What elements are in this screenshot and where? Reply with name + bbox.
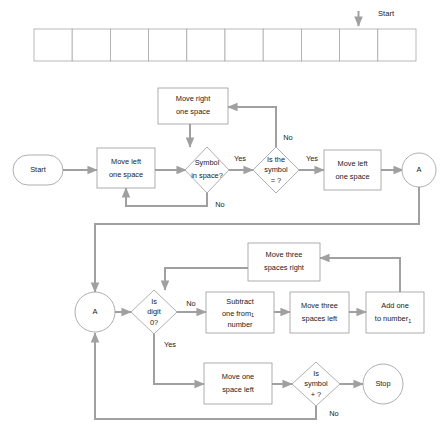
node-is-symbol-plus[interactable]: Is symbol + ?	[292, 362, 340, 406]
add-one-to-number-line1: Add one	[381, 301, 409, 310]
edge-addone-to-movethreeright	[320, 258, 400, 292]
move-three-spaces-right-line1: Move three	[266, 250, 303, 259]
edge-label-is-symbol-plus-no: No	[329, 409, 338, 418]
edge-label-is-the-symbol-no: No	[283, 133, 292, 142]
tape-cell[interactable]	[187, 29, 225, 61]
node-is-the-symbol-equals[interactable]: Is the symbol = ?	[253, 147, 299, 193]
subtract-one-from-number-line2: one from1	[222, 308, 254, 318]
connector-a-top-label: A	[417, 165, 422, 174]
node-connector-a-top[interactable]: A	[402, 153, 436, 187]
tape-cell[interactable]	[340, 29, 378, 61]
node-subtract-one-from-number[interactable]: Subtract one from1 number	[206, 292, 274, 333]
move-one-space-left-shape	[204, 363, 272, 404]
tape-cell[interactable]	[72, 29, 110, 61]
node-move-one-space-left[interactable]: Move one space left	[204, 363, 272, 404]
edge-label-is-the-symbol-yes: Yes	[306, 154, 318, 163]
start-label: Start	[30, 165, 46, 174]
is-the-symbol-equals-line1: Is the	[267, 155, 285, 164]
is-digit-0-line3: 0?	[150, 318, 158, 327]
is-the-symbol-equals-line3: = ?	[271, 176, 281, 185]
tape-cells	[34, 29, 416, 61]
tape-cell[interactable]	[225, 29, 263, 61]
add-one-to-number-line2: to number1	[375, 314, 411, 324]
subtract-one-from-number-line1: Subtract	[226, 297, 254, 306]
is-symbol-plus-line1: Is	[313, 369, 319, 378]
edge-label-is-digit-0-yes: Yes	[164, 340, 176, 349]
node-add-one-to-number[interactable]: Add one to number1	[366, 292, 424, 333]
tape-cell[interactable]	[263, 29, 301, 61]
symbol-in-space-shape	[185, 147, 229, 193]
node-move-left-one-space-1[interactable]: Move left one space	[97, 148, 155, 188]
node-connector-a-bottom[interactable]: A	[75, 292, 115, 332]
move-left-one-space-1-shape	[97, 148, 155, 188]
move-three-spaces-left-line1: Move three	[301, 301, 338, 310]
edge-symbolinspace-no-loop	[126, 188, 207, 206]
move-three-spaces-right-shape	[248, 243, 320, 281]
node-move-right-one-space[interactable]: Move right one space	[158, 88, 228, 124]
edge-label-symbol-in-space-yes: Yes	[234, 154, 246, 163]
node-is-digit-0[interactable]: Is digit 0?	[131, 290, 177, 334]
move-left-one-space-1-line1: Move left	[111, 157, 141, 166]
tape-start-label: Start	[378, 9, 395, 18]
flowchart-diagram: Start	[0, 0, 447, 434]
is-symbol-plus-line2: symbol	[304, 379, 328, 388]
stop-label: Stop	[375, 379, 390, 388]
move-three-spaces-left-shape	[290, 292, 349, 333]
subtract-one-from-number-line3: number	[227, 320, 253, 329]
tape-strip: Start	[34, 9, 416, 61]
is-digit-0-line1: Is	[151, 297, 157, 306]
move-right-one-space-line1: Move right	[176, 94, 211, 103]
is-digit-0-line2: digit	[147, 307, 161, 316]
move-one-space-left-line1: Move one	[222, 372, 254, 381]
edge-movethreeright-to-isdigit0	[165, 268, 248, 290]
edge-isdigit0-yes	[154, 334, 204, 384]
tape-cell[interactable]	[110, 29, 148, 61]
add-one-to-number-shape	[366, 292, 424, 333]
node-move-three-spaces-right[interactable]: Move three spaces right	[248, 243, 320, 281]
edge-isthesymbol-no-loop	[228, 107, 276, 147]
move-left-one-space-1-line2: one space	[109, 170, 143, 179]
move-left-one-space-2-line2: one space	[335, 172, 369, 181]
move-left-one-space-2-shape	[324, 150, 381, 190]
symbol-in-space-line2: in space?	[191, 171, 223, 180]
node-move-left-one-space-2[interactable]: Move left one space	[324, 150, 381, 190]
node-stop[interactable]: Stop	[363, 364, 403, 404]
move-left-one-space-2-line1: Move left	[338, 159, 368, 168]
is-the-symbol-equals-line2: symbol	[264, 165, 288, 174]
move-right-one-space-shape	[158, 88, 228, 124]
node-symbol-in-space[interactable]: Symbol in space?	[185, 147, 229, 193]
tape-cell[interactable]	[378, 29, 416, 61]
tape-cell[interactable]	[149, 29, 187, 61]
symbol-in-space-line1: Symbol	[195, 158, 220, 167]
connector-a-bottom-label: A	[93, 307, 98, 316]
tape-cell[interactable]	[301, 29, 339, 61]
edge-label-is-digit-0-no: No	[186, 299, 195, 308]
tape-cell[interactable]	[34, 29, 72, 61]
node-move-three-spaces-left[interactable]: Move three spaces left	[290, 292, 349, 333]
edge-label-symbol-in-space-no: No	[215, 200, 224, 209]
move-three-spaces-left-line2: spaces left	[302, 314, 337, 323]
move-right-one-space-line2: one space	[176, 107, 210, 116]
node-start[interactable]: Start	[13, 155, 63, 185]
move-three-spaces-right-line2: spaces right	[264, 263, 304, 272]
move-one-space-left-line2: space left	[222, 385, 254, 394]
is-symbol-plus-line3: + ?	[311, 390, 321, 399]
